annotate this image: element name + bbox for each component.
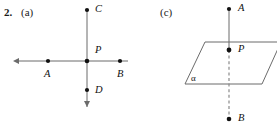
figure-c-plane-alpha	[185, 42, 277, 84]
figure-a-label-D: D	[95, 85, 103, 96]
figure-a-point-C	[85, 8, 89, 12]
figure-c-label-B: B	[238, 113, 244, 124]
figures-canvas	[0, 0, 277, 130]
figure-c-label-A: A	[238, 3, 244, 14]
figure-a-point-D	[85, 88, 89, 92]
figure-c-point-B	[227, 117, 232, 122]
figure-c	[185, 7, 277, 121]
figure-a-label-B: B	[117, 69, 123, 80]
figure-a-label-A: A	[44, 69, 50, 80]
figure-a-point-A	[46, 59, 50, 63]
figure-a-point-P	[85, 59, 90, 64]
figure-a-label-C: C	[95, 4, 102, 15]
figure-a-label-P: P	[95, 45, 101, 56]
figure-a-point-B	[118, 59, 122, 63]
figure-c-point-P	[227, 48, 232, 53]
figure-c-point-A	[227, 7, 231, 11]
figure-c-label-P: P	[238, 44, 244, 55]
figure-c-label-alpha: α	[191, 74, 196, 83]
figure-a	[19, 8, 128, 107]
figure-page: 2. (a) (c)	[0, 0, 277, 130]
